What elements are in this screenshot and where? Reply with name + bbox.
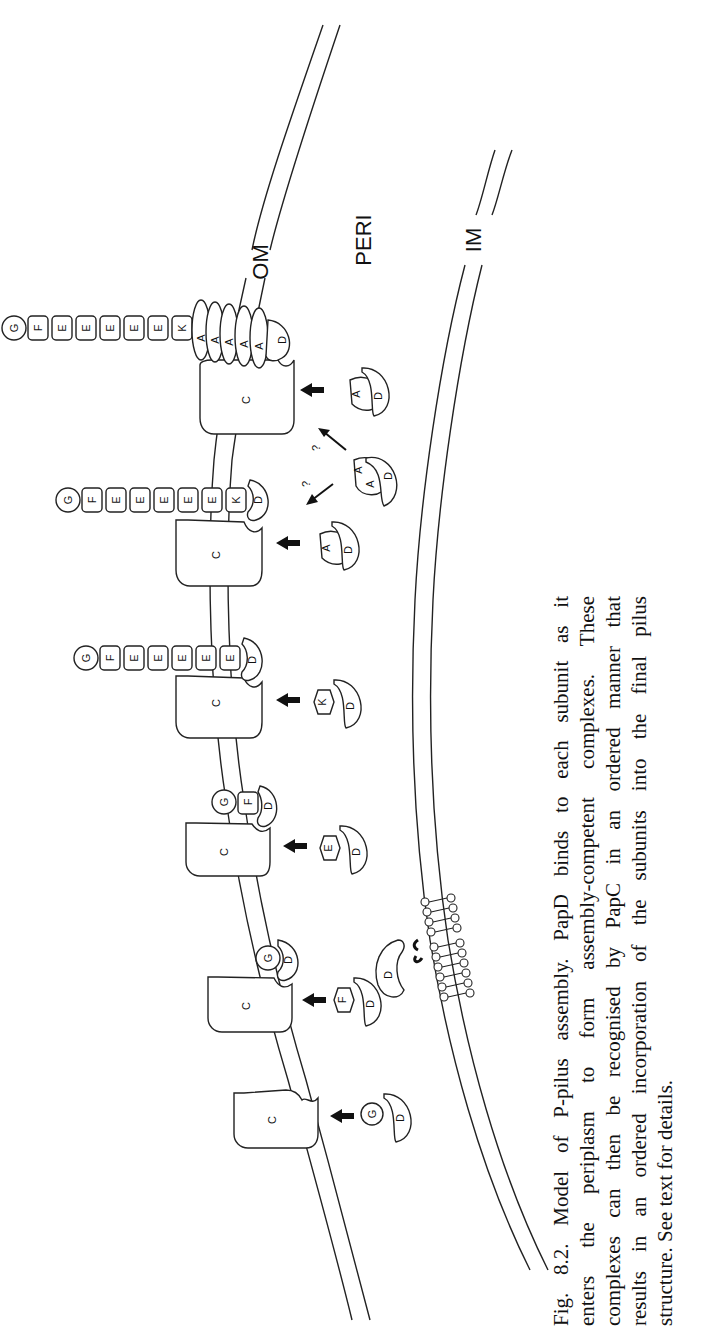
peri-label: PERI	[351, 214, 376, 265]
svg-text:A: A	[195, 334, 207, 342]
svg-text:A: A	[320, 544, 332, 552]
svg-text:D: D	[364, 1000, 376, 1008]
svg-text:G: G	[8, 324, 20, 333]
caption-line-5: structure. See text for details.	[652, 596, 678, 1326]
svg-text:A: A	[238, 340, 250, 348]
pilus-stage-2: G D	[256, 940, 298, 981]
svg-text:A: A	[352, 466, 364, 474]
svg-text:E: E	[158, 496, 170, 503]
svg-text:E: E	[56, 324, 68, 331]
question-mark-lower: ?	[300, 481, 312, 487]
svg-text:F: F	[86, 496, 98, 503]
incoming-complex-f-d: F D	[334, 978, 381, 1026]
svg-text:E: E	[134, 496, 146, 503]
svg-text:C: C	[240, 1002, 252, 1010]
arrow-left-icon	[276, 536, 300, 550]
svg-text:G: G	[366, 1110, 378, 1119]
figure-caption: Fig. 8.2. Model of P-pilus assembly. Pap…	[548, 596, 678, 1326]
svg-text:F: F	[104, 654, 116, 661]
svg-text:E: E	[152, 654, 164, 661]
svg-text:G: G	[80, 654, 92, 663]
svg-text:C: C	[240, 396, 252, 404]
svg-text:C: C	[210, 551, 222, 559]
usher-c-stage-2: C	[208, 977, 292, 1032]
svg-text:E: E	[104, 324, 116, 331]
svg-text:C: C	[218, 848, 230, 856]
svg-text:E: E	[128, 324, 140, 331]
svg-text:E: E	[176, 654, 188, 661]
svg-text:E: E	[128, 654, 140, 661]
svg-text:D: D	[342, 546, 354, 554]
inner-membrane	[413, 150, 548, 1270]
svg-text:D: D	[394, 1114, 406, 1122]
svg-text:E: E	[200, 654, 212, 661]
question-mark-upper: ?	[310, 445, 322, 451]
arrow-left-icon	[302, 993, 326, 1007]
usher-c-stage-4: C	[176, 676, 262, 738]
usher-c-stage-6: C	[200, 360, 294, 434]
arrow-left-icon	[276, 693, 300, 707]
svg-text:A: A	[350, 390, 362, 398]
svg-text:E: E	[152, 324, 164, 331]
svg-text:D: D	[262, 802, 274, 810]
svg-text:E: E	[322, 844, 334, 851]
svg-text:K: K	[316, 698, 328, 706]
svg-text:E: E	[110, 496, 122, 503]
svg-text:E: E	[224, 654, 236, 661]
svg-text:E: E	[182, 496, 194, 503]
svg-text:G: G	[62, 496, 74, 505]
svg-text:F: F	[336, 996, 348, 1003]
svg-text:C: C	[266, 1116, 278, 1124]
pilus-stage-5: G F E E E E E K D	[56, 480, 268, 521]
pilus-stage-3: G F D	[212, 786, 277, 827]
om-label: OM	[248, 244, 273, 279]
svg-text:A: A	[209, 336, 221, 344]
svg-text:D: D	[344, 702, 356, 710]
svg-text:K: K	[230, 496, 242, 504]
svg-text:C: C	[210, 699, 222, 707]
incoming-complex-a-d-stage-5: A D	[320, 522, 359, 570]
free-chaperone-d: D	[376, 940, 404, 997]
svg-text:A: A	[223, 338, 235, 346]
svg-text:G: G	[218, 798, 230, 807]
arrow-left-icon	[283, 839, 307, 853]
svg-text:D: D	[350, 848, 362, 856]
caption-line-1: Fig. 8.2. Model of P-pilus assembly. Pap…	[548, 596, 574, 1326]
incoming-complex-a-d-stage-6: A D	[350, 368, 389, 416]
arrow-left-icon	[330, 1109, 354, 1123]
caption-line-2: enters the periplasm to form assembly-co…	[574, 596, 600, 1326]
uncertain-pathway-arrows: ? ?	[300, 428, 346, 505]
svg-text:K: K	[176, 324, 188, 332]
svg-text:D: D	[246, 656, 258, 664]
caption-line-4: results in an ordered incorporation of t…	[626, 596, 652, 1326]
svg-text:A: A	[253, 342, 265, 350]
svg-text:D: D	[372, 392, 384, 400]
usher-c-stage-3: C	[186, 823, 270, 876]
svg-text:D: D	[282, 956, 294, 964]
svg-text:E: E	[206, 496, 218, 503]
im-label: IM	[461, 228, 486, 252]
svg-text:G: G	[262, 954, 274, 963]
caption-line-3: complexes can then be recognised by PapC…	[600, 596, 626, 1326]
incoming-complex-g-d: G D	[361, 1094, 411, 1142]
svg-text:A: A	[364, 480, 376, 488]
arrow-left-icon	[300, 383, 324, 397]
svg-text:D: D	[276, 336, 288, 344]
usher-c-stage-1: C	[234, 1090, 318, 1148]
svg-text:F: F	[32, 324, 44, 331]
chaperone-label: D	[382, 971, 394, 979]
svg-text:D: D	[382, 472, 394, 480]
svg-text:E: E	[80, 324, 92, 331]
dimer-complex-a-a-d: A A D	[352, 457, 397, 506]
svg-text:F: F	[242, 798, 254, 805]
pilus-stage-4: G F E E E E E D	[74, 638, 262, 681]
pilus-stage-6: G F E E E E E K A A A A A D	[2, 300, 290, 368]
incoming-complex-e-d: E D	[320, 826, 367, 874]
incoming-complex-k-d: K D	[314, 680, 361, 728]
usher-c-stage-5: C	[176, 520, 262, 586]
svg-text:D: D	[252, 496, 264, 504]
